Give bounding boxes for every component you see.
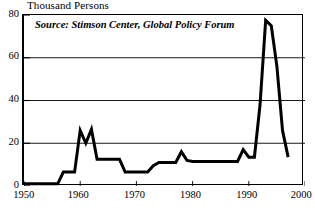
data-series-line bbox=[24, 20, 288, 184]
x-tick-label-1990: 1990 bbox=[236, 189, 257, 200]
x-axis-tick-labels: 195019601970198019902000 bbox=[0, 189, 315, 205]
y-axis-tick-labels: 020406080 bbox=[0, 0, 19, 208]
x-tick-label-2000: 2000 bbox=[291, 189, 312, 200]
y-tick-label-20: 20 bbox=[0, 137, 19, 148]
x-tick-label-1970: 1970 bbox=[124, 189, 145, 200]
chart-axis-title: Thousand Persons bbox=[27, 0, 109, 12]
chart-canvas bbox=[24, 15, 305, 186]
y-tick-label-60: 60 bbox=[0, 51, 19, 62]
plot-area: Source: Stimson Center, Global Policy Fo… bbox=[22, 14, 303, 185]
source-annotation: Source: Stimson Center, Global Policy Fo… bbox=[35, 19, 235, 31]
x-tick-label-1950: 1950 bbox=[13, 189, 34, 200]
x-axis-tick-marks bbox=[24, 181, 305, 186]
x-tick-label-1960: 1960 bbox=[68, 189, 89, 200]
y-tick-label-80: 80 bbox=[0, 9, 19, 20]
y-axis-tick-marks bbox=[24, 15, 30, 186]
y-tick-label-40: 40 bbox=[0, 94, 19, 105]
chart-figure: Thousand Persons 020406080 Source: Stims… bbox=[0, 0, 315, 208]
x-tick-label-1980: 1980 bbox=[180, 189, 201, 200]
